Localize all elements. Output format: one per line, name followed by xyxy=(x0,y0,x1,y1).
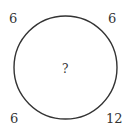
bottom-left-number: 6 xyxy=(10,112,18,125)
top-left-number: 6 xyxy=(9,12,17,25)
center-question-mark: ? xyxy=(62,63,68,76)
bottom-right-number: 12 xyxy=(106,112,123,125)
top-right-number: 6 xyxy=(108,12,116,25)
